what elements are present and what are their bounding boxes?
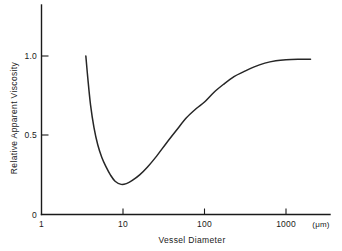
plot-area: 1.0 0.5 0 1 10 100 1000 (μm) Vessel Diam… — [0, 0, 342, 251]
x-tick-label-10: 10 — [118, 219, 128, 229]
y-tick-label-0.5: 0.5 — [25, 130, 37, 140]
x-axis-unit-label: (μm) — [312, 220, 330, 229]
chart-figure: 1.0 0.5 0 1 10 100 1000 (μm) Vessel Diam… — [0, 0, 342, 251]
y-axis-title: Relative Apparent Viscosity — [9, 61, 19, 174]
x-tick-label-1000: 1000 — [276, 219, 296, 229]
y-tick-label-0: 0 — [32, 210, 37, 220]
x-tick-label-100: 100 — [197, 219, 212, 229]
y-tick-label-1.0: 1.0 — [25, 51, 37, 61]
viscosity-curve — [86, 56, 311, 185]
x-axis-title: Vessel Diameter — [158, 235, 225, 245]
x-tick-label-1: 1 — [39, 219, 44, 229]
